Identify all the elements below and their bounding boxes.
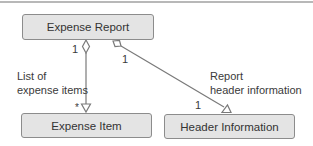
class-name: Expense Report	[47, 21, 129, 33]
class-expense-report[interactable]: Expense Report	[22, 14, 154, 40]
multiplicity-label: *	[75, 101, 79, 114]
aggregation-diamond-icon	[113, 41, 121, 47]
aggregation-diamond-icon	[83, 40, 90, 53]
multiplicity-label: 1	[195, 99, 201, 112]
multiplicity-label: 1	[72, 43, 78, 56]
class-expense-item[interactable]: Expense Item	[21, 113, 152, 138]
class-name: Header Information	[180, 121, 278, 133]
class-name: Expense Item	[51, 120, 121, 132]
association-label-line: List of	[17, 70, 46, 83]
association-label-line: expense items	[17, 84, 88, 97]
association-label-line: header information	[210, 84, 302, 97]
class-header-information[interactable]: Header Information	[164, 114, 295, 139]
multiplicity-label: 1	[122, 53, 128, 66]
association-line-header-information	[121, 46, 224, 107]
arrowhead-icon	[82, 104, 91, 112]
association-label-line: Report	[210, 70, 243, 83]
